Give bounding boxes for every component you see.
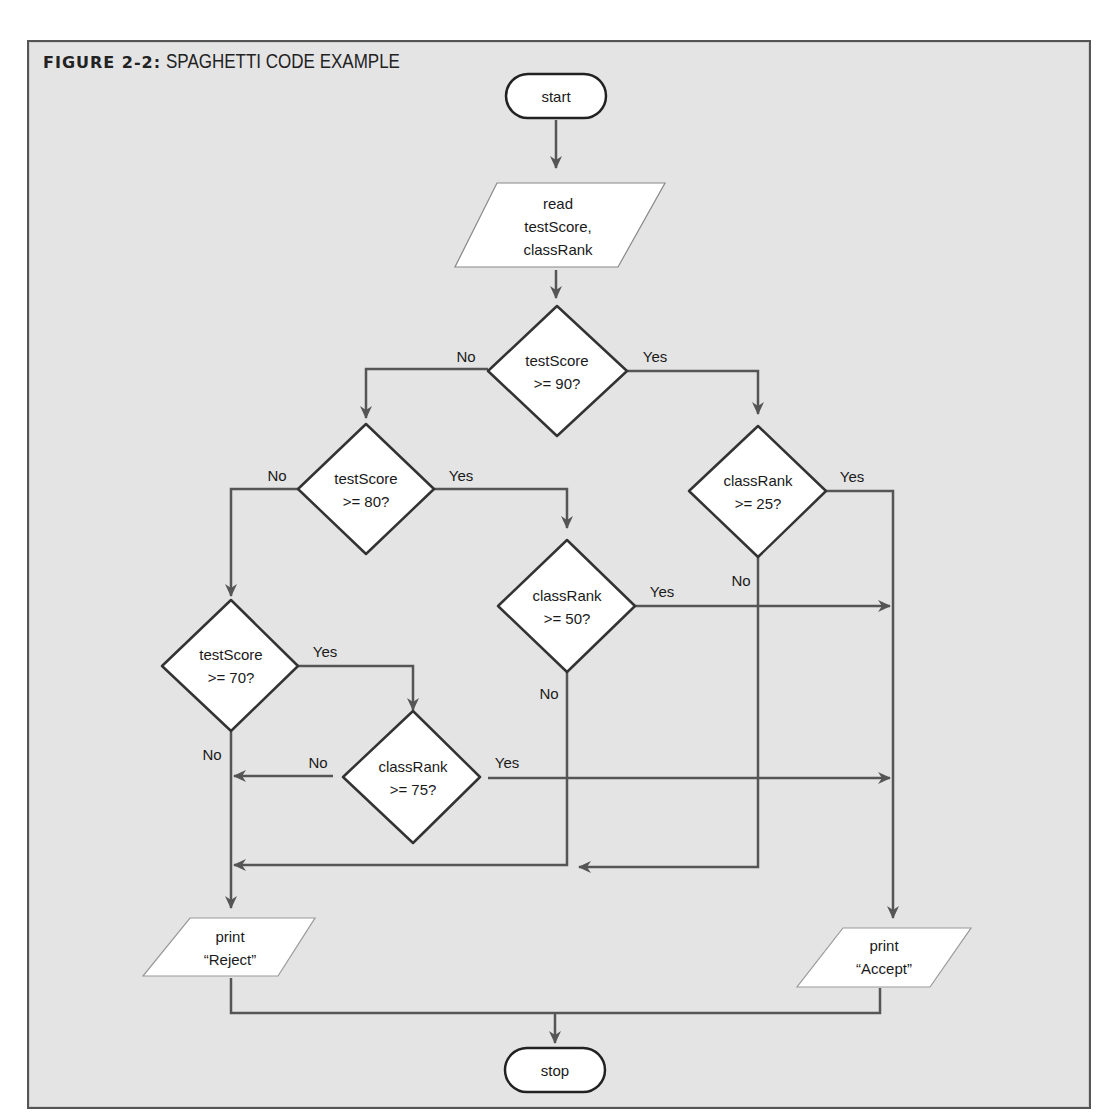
r75-line-1: classRank <box>378 758 448 775</box>
stop-label: stop <box>541 1062 569 1079</box>
label-r50-no: No <box>539 685 558 702</box>
d70-line-2: >= 70? <box>208 669 255 686</box>
edge-d70-yes <box>298 666 413 710</box>
r75-line-2: >= 75? <box>390 781 437 798</box>
stop-terminator: stop <box>505 1048 605 1092</box>
label-d80-yes: Yes <box>449 467 473 484</box>
accept-line-1: print <box>869 937 899 954</box>
accept-line-2: “Accept” <box>856 960 912 977</box>
decision-classrank-25: classRank >= 25? <box>689 426 826 557</box>
read-line-1: read <box>543 195 573 212</box>
start-terminator: start <box>506 74 606 118</box>
decision-classrank-50: classRank >= 50? <box>498 540 635 672</box>
print-reject-box: print “Reject” <box>143 918 315 976</box>
d90-line-1: testScore <box>525 352 588 369</box>
label-r25-yes: Yes <box>840 468 864 485</box>
flowchart: start read testScore, classRank testScor… <box>0 0 1109 1120</box>
label-r50-yes: Yes <box>650 583 674 600</box>
edge-d80-no <box>231 489 298 596</box>
read-line-2: testScore, <box>524 218 592 235</box>
r25-line-1: classRank <box>723 472 793 489</box>
label-d90-yes: Yes <box>643 348 667 365</box>
read-line-3: classRank <box>523 241 593 258</box>
label-r75-yes: Yes <box>495 754 519 771</box>
label-d70-no: No <box>202 746 221 763</box>
start-label: start <box>541 88 571 105</box>
edge-d90-no <box>366 369 488 418</box>
decision-testscore-70: testScore >= 70? <box>162 600 298 731</box>
label-d90-no: No <box>456 348 475 365</box>
label-r25-no: No <box>731 572 750 589</box>
edge-r25-yes <box>826 491 893 918</box>
d90-line-2: >= 90? <box>534 375 581 392</box>
d70-line-1: testScore <box>199 646 262 663</box>
d80-line-1: testScore <box>334 470 397 487</box>
label-d70-yes: Yes <box>313 643 337 660</box>
r50-line-1: classRank <box>532 587 602 604</box>
decision-testscore-90: testScore >= 90? <box>488 306 627 436</box>
r50-line-2: >= 50? <box>544 610 591 627</box>
edge-d80-yes <box>434 489 567 528</box>
label-d80-no: No <box>267 467 286 484</box>
edge-d90-yes <box>627 371 758 414</box>
print-accept-box: print “Accept” <box>797 928 971 987</box>
edge-outputs-merge <box>231 978 880 1013</box>
label-r75-no: No <box>308 754 327 771</box>
read-input-box: read testScore, classRank <box>455 183 665 267</box>
decision-testscore-80: testScore >= 80? <box>298 424 434 554</box>
d80-line-2: >= 80? <box>343 493 390 510</box>
decision-classrank-75: classRank >= 75? <box>343 711 480 843</box>
r25-line-2: >= 25? <box>735 495 782 512</box>
reject-line-2: “Reject” <box>204 951 257 968</box>
reject-line-1: print <box>215 928 245 945</box>
